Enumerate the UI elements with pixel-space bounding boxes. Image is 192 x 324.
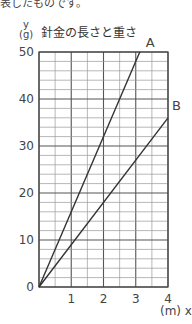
x-tick-label: 3: [132, 292, 140, 306]
y-tick-label: 10: [19, 233, 34, 247]
x-tick-label: 2: [100, 292, 108, 306]
y-tick-label: 30: [19, 139, 34, 153]
series-label-a: A: [146, 35, 155, 50]
y-tick-label: 0: [26, 280, 34, 294]
line-chart: 010203040501234(m) xAB: [0, 0, 192, 324]
y-tick-label: 50: [19, 45, 34, 59]
x-axis-label: (m) x: [160, 304, 192, 318]
series-line-a: [39, 52, 140, 287]
x-tick-label: 1: [67, 292, 75, 306]
series-label-b: B: [172, 98, 181, 113]
y-tick-label: 20: [19, 186, 34, 200]
y-tick-label: 40: [19, 92, 34, 106]
